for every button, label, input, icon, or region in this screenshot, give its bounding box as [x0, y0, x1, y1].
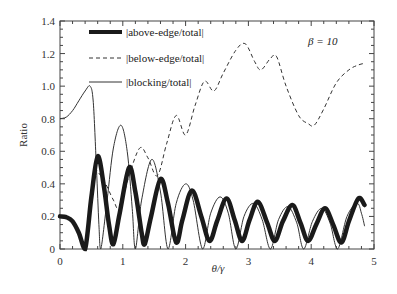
- y-tick-label: 0.2: [41, 210, 55, 222]
- legend-label-above-edge: |above-edge/total|: [126, 26, 204, 38]
- y-tick-label: 0.4: [41, 178, 55, 190]
- legend-label-below-edge: |below-edge/total|: [126, 52, 204, 64]
- legend-label-blocking: |blocking/total|: [126, 76, 192, 88]
- series-above-edge: [60, 156, 365, 249]
- ratio-chart: 01234500.20.40.60.81.01.21.4 |above-edge…: [0, 0, 397, 294]
- x-tick-label: 5: [371, 255, 377, 267]
- x-tick-label: 0: [57, 255, 63, 267]
- y-tick-label: 1.2: [41, 48, 55, 60]
- y-axis-title: Ratio: [17, 123, 29, 147]
- axes: 01234500.20.40.60.81.01.21.4: [41, 15, 377, 267]
- y-tick-label: 1.0: [41, 80, 55, 92]
- y-tick-label: 0: [50, 243, 56, 255]
- x-axis-title: θ/γ: [212, 262, 225, 274]
- x-tick-label: 4: [308, 255, 314, 267]
- y-tick-label: 1.4: [41, 15, 55, 27]
- x-tick-label: 3: [246, 255, 252, 267]
- y-tick-label: 0.8: [41, 113, 55, 125]
- x-tick-label: 2: [183, 255, 189, 267]
- series-blocking: [60, 86, 365, 249]
- beta-annotation: β = 10: [307, 35, 338, 47]
- legend: |above-edge/total| |below-edge/total| |b…: [89, 26, 204, 88]
- y-tick-label: 0.6: [41, 145, 55, 157]
- series-layer: [60, 43, 365, 249]
- x-tick-label: 1: [120, 255, 126, 267]
